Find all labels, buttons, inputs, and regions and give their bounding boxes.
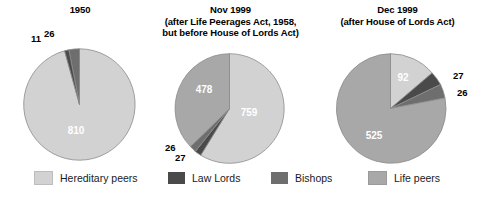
chart-dec-1999-label-92: 92 [389, 72, 417, 83]
chart-1950-pie: 810 [22, 47, 137, 162]
chart-nov-1999-label-759: 759 [231, 107, 267, 118]
chart-nov-1999-pie: 759 478 [173, 52, 286, 165]
chart-1950-title: 1950 [0, 4, 160, 16]
chart-nov-1999-label-26: 26 [165, 142, 176, 153]
chart-dec-1999-subtitle-line1: (after House of Lords Act) [316, 16, 479, 28]
legend-swatch-life-peers [368, 171, 387, 185]
chart-dec-1999-label-525: 525 [356, 130, 392, 141]
chart-1950-label-26: 26 [44, 28, 55, 39]
chart-nov-1999-subtitle-line1: (after Life Peerages Act, 1958, [143, 16, 318, 28]
legend-item-hereditary-peers[interactable]: Hereditary peers [34, 170, 138, 186]
chart-nov-1999-label-478: 478 [186, 84, 222, 95]
legend-item-law-lords[interactable]: Law Lords [168, 170, 240, 186]
chart-nov-1999: Nov 1999 (after Life Peerages Act, 1958,… [143, 0, 318, 170]
legend-item-bishops[interactable]: Bishops [271, 170, 332, 186]
chart-1950-pie-svg [22, 47, 137, 162]
chart-1950: 1950 810 11 26 [0, 0, 160, 170]
legend-label-hereditary-peers: Hereditary peers [60, 172, 138, 184]
legend-label-life-peers: Life peers [394, 172, 440, 184]
chart-dec-1999-pie: 92 525 [334, 52, 447, 165]
chart-dec-1999-title: Dec 1999 (after House of Lords Act) [316, 4, 479, 27]
legend-label-bishops: Bishops [295, 172, 332, 184]
pie-chart-figure: 1950 810 11 26 Nov 1999 (after Life Peer… [0, 0, 479, 198]
chart-dec-1999-pie-svg [334, 52, 447, 165]
chart-dec-1999-label-27: 27 [453, 70, 464, 81]
chart-1950-label-11: 11 [31, 33, 41, 44]
chart-nov-1999-subtitle-line2: but before House of Lords Act) [143, 27, 318, 39]
legend-item-life-peers[interactable]: Life peers [368, 170, 440, 186]
chart-nov-1999-label-27: 27 [175, 152, 186, 163]
legend-swatch-hereditary-peers [34, 171, 53, 185]
chart-1950-label-810: 810 [56, 125, 96, 136]
legend: Hereditary peers Law Lords Bishops Life … [0, 170, 479, 190]
chart-dec-1999: Dec 1999 (after House of Lords Act) 92 5… [316, 0, 479, 170]
chart-nov-1999-title: Nov 1999 (after Life Peerages Act, 1958,… [143, 4, 318, 39]
legend-swatch-law-lords [168, 172, 185, 184]
chart-dec-1999-label-26: 26 [457, 87, 468, 98]
legend-swatch-bishops [271, 172, 288, 184]
chart-nov-1999-pie-svg [173, 52, 286, 165]
legend-label-law-lords: Law Lords [192, 172, 240, 184]
